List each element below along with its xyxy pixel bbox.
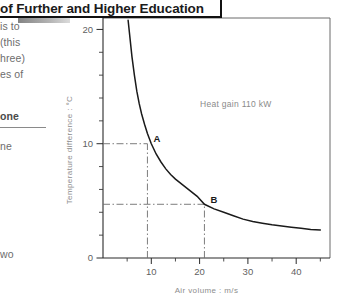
data-curve — [128, 20, 320, 230]
chart-figure: 0102010203040ABHeat gain 110 kWAir volum… — [0, 0, 350, 305]
chart-frame — [103, 18, 330, 258]
x-tick-label: 40 — [291, 266, 302, 277]
x-tick-label: 30 — [243, 266, 254, 277]
y-tick-label: 10 — [82, 138, 93, 149]
x-axis-title: Air volume : m/s — [175, 286, 239, 295]
header-banner-text: of Further and Higher Education — [0, 1, 204, 16]
y-axis-title: Temperature difference : °C — [65, 96, 74, 205]
x-tick-label: 20 — [194, 266, 205, 277]
y-tick-label: 20 — [82, 24, 93, 35]
y-tick-label: 0 — [88, 252, 93, 263]
chart-annotation: Heat gain 110 kW — [200, 99, 272, 109]
x-tick-label: 10 — [146, 266, 157, 277]
header-banner: of Further and Higher Education — [0, 0, 222, 18]
point-label-b: B — [210, 194, 217, 205]
scanned-page: is to(thishree)es ofonenewo 010201020304… — [0, 0, 350, 305]
point-label-a: A — [153, 133, 160, 144]
